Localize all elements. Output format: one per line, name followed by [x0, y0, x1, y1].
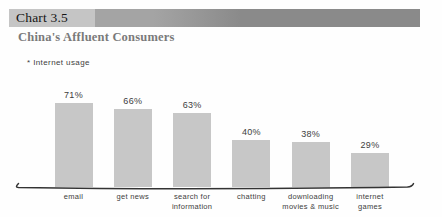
- bar-value-label: 66%: [123, 96, 142, 106]
- bar: [351, 153, 389, 187]
- bar: [114, 109, 152, 187]
- chart-figure: Chart 3.5 China's Affluent Consumers * I…: [0, 0, 442, 217]
- bar-value-label: 38%: [301, 129, 320, 139]
- bar: [55, 103, 93, 187]
- bar: [292, 142, 330, 187]
- bar-value-label: 71%: [64, 90, 83, 100]
- bar-value-label: 63%: [183, 100, 202, 110]
- bar-value-label: 40%: [242, 127, 261, 137]
- category-label: internet games: [322, 192, 418, 212]
- plot-area: 71%email66%get news63%search for informa…: [0, 0, 442, 217]
- bar-value-label: 29%: [361, 140, 380, 150]
- bar: [173, 113, 211, 187]
- bar: [232, 140, 270, 187]
